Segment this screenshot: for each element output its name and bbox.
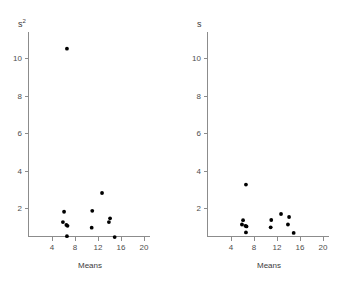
data-point <box>66 224 70 228</box>
svg-text:2: 2 <box>18 204 23 213</box>
data-point <box>108 216 112 220</box>
svg-text:Means: Means <box>257 261 281 270</box>
panel-sd: s 48121620246810Means <box>179 0 358 286</box>
panel-variance: s2 48121620246810Means <box>0 0 179 286</box>
data-point <box>113 235 117 239</box>
data-point <box>286 223 290 227</box>
data-point <box>65 234 69 238</box>
svg-text:20: 20 <box>319 243 328 252</box>
data-point <box>269 225 273 229</box>
svg-text:4: 4 <box>50 243 55 252</box>
svg-text:8: 8 <box>197 92 202 101</box>
svg-text:2: 2 <box>197 204 202 213</box>
svg-text:8: 8 <box>252 243 257 252</box>
svg-text:10: 10 <box>13 54 22 63</box>
svg-text:4: 4 <box>18 167 23 176</box>
data-point <box>287 215 291 219</box>
data-point <box>279 212 283 216</box>
svg-text:16: 16 <box>117 243 126 252</box>
svg-text:8: 8 <box>18 92 23 101</box>
data-point <box>100 191 104 195</box>
data-point <box>244 230 248 234</box>
data-point <box>241 218 245 222</box>
svg-text:20: 20 <box>140 243 149 252</box>
svg-text:10: 10 <box>192 54 201 63</box>
svg-text:16: 16 <box>296 243 305 252</box>
data-point <box>61 220 65 224</box>
data-point <box>244 183 248 187</box>
data-point <box>245 224 249 228</box>
svg-text:6: 6 <box>197 129 202 138</box>
svg-text:Means: Means <box>78 261 102 270</box>
data-point <box>65 47 69 51</box>
scatter-plot-variance: 48121620246810Means <box>0 0 179 286</box>
data-point <box>292 231 296 235</box>
data-point <box>269 218 273 222</box>
data-point <box>240 223 244 227</box>
data-point <box>90 209 94 213</box>
scatter-plot-sd: 48121620246810Means <box>179 0 358 286</box>
data-point <box>90 226 94 230</box>
svg-text:4: 4 <box>197 167 202 176</box>
svg-text:8: 8 <box>73 243 78 252</box>
data-point <box>107 220 111 224</box>
svg-text:12: 12 <box>94 243 103 252</box>
svg-text:6: 6 <box>18 129 23 138</box>
svg-text:4: 4 <box>229 243 234 252</box>
figure-panels: s2 48121620246810Means s 48121620246810M… <box>0 0 358 286</box>
data-point <box>62 210 66 214</box>
svg-text:12: 12 <box>273 243 282 252</box>
